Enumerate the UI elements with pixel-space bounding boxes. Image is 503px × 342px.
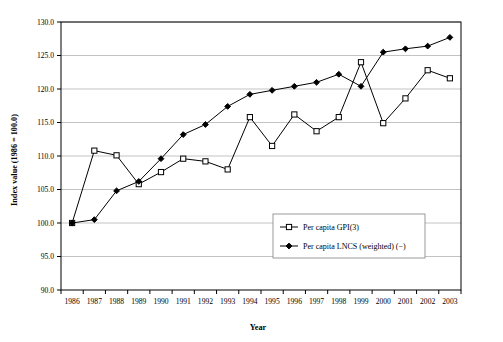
data-point-marker-filled-diamond bbox=[247, 91, 253, 97]
x-tick-label: 2001 bbox=[398, 297, 413, 306]
data-point-marker-open-square bbox=[181, 156, 186, 161]
x-tick-label: 1988 bbox=[109, 297, 124, 306]
index-value-line-chart: 90.095.0100.0105.0110.0115.0120.0125.013… bbox=[0, 0, 503, 342]
y-tick-label: 95.0 bbox=[41, 252, 54, 261]
data-point-marker-open-square bbox=[292, 112, 297, 117]
data-point-marker-open-square bbox=[203, 159, 208, 164]
data-point-marker-open-square bbox=[358, 60, 363, 65]
x-tick-label: 2003 bbox=[442, 297, 457, 306]
y-axis-title: Index value (1986 = 100.0) bbox=[10, 114, 19, 206]
x-tick-label: 1997 bbox=[309, 297, 324, 306]
data-point-marker-open-square bbox=[92, 148, 97, 153]
data-point-marker-open-square bbox=[286, 224, 291, 229]
chart-container: 90.095.0100.0105.0110.0115.0120.0125.013… bbox=[0, 0, 503, 342]
data-point-marker-open-square bbox=[403, 96, 408, 101]
x-tick-label: 1989 bbox=[131, 297, 146, 306]
y-tick-label: 125.0 bbox=[37, 51, 54, 60]
y-tick-label: 90.0 bbox=[41, 286, 54, 295]
y-tick-label: 120.0 bbox=[37, 85, 54, 94]
data-point-marker-open-square bbox=[425, 68, 430, 73]
x-tick-label: 1992 bbox=[198, 297, 213, 306]
y-tick-label: 105.0 bbox=[37, 185, 54, 194]
data-point-marker-open-square bbox=[270, 143, 275, 148]
legend: Per capita GPI(3)Per capita LNCS (weight… bbox=[273, 214, 425, 258]
series-lncs-weighted bbox=[69, 35, 453, 226]
data-point-marker-filled-diamond bbox=[447, 35, 453, 41]
x-tick-label: 1993 bbox=[220, 297, 235, 306]
data-point-marker-open-square bbox=[247, 115, 252, 120]
x-tick-label: 1986 bbox=[65, 297, 80, 306]
data-point-marker-filled-diamond bbox=[425, 43, 431, 49]
data-point-marker-open-square bbox=[158, 169, 163, 174]
legend-label: Per capita GPI(3) bbox=[303, 223, 359, 232]
data-point-marker-open-square bbox=[381, 121, 386, 126]
x-tick-label: 2002 bbox=[420, 297, 435, 306]
x-tick-label: 1996 bbox=[287, 297, 302, 306]
data-point-marker-open-square bbox=[336, 115, 341, 120]
x-tick-label: 1990 bbox=[153, 297, 168, 306]
legend-label: Per capita LNCS (weighted) (−) bbox=[303, 242, 406, 251]
x-tick-label: 1994 bbox=[242, 297, 257, 306]
data-point-marker-filled-diamond bbox=[269, 87, 275, 93]
y-tick-label: 130.0 bbox=[37, 18, 54, 27]
data-point-marker-open-square bbox=[114, 153, 119, 158]
series-polyline bbox=[72, 37, 450, 223]
x-axis-title: Year bbox=[250, 323, 267, 332]
x-tick-label: 1991 bbox=[176, 297, 191, 306]
data-point-marker-filled-diamond bbox=[358, 83, 364, 89]
x-tick-label: 1987 bbox=[87, 297, 102, 306]
data-point-marker-filled-diamond bbox=[380, 49, 386, 55]
data-point-marker-filled-diamond bbox=[336, 71, 342, 77]
x-tick-label: 1995 bbox=[265, 297, 280, 306]
y-tick-label: 115.0 bbox=[37, 118, 54, 127]
series-polyline bbox=[72, 62, 450, 223]
x-axis-ticks: 1986198719881989199019911992199319941995… bbox=[61, 290, 461, 306]
y-tick-label: 100.0 bbox=[37, 219, 54, 228]
y-axis-ticks: 90.095.0100.0105.0110.0115.0120.0125.013… bbox=[37, 18, 61, 295]
data-point-marker-filled-diamond bbox=[314, 79, 320, 85]
legend-box bbox=[273, 214, 425, 258]
x-tick-label: 2000 bbox=[376, 297, 391, 306]
x-tick-label: 1999 bbox=[353, 297, 368, 306]
y-tick-label: 110.0 bbox=[37, 152, 54, 161]
data-point-marker-open-square bbox=[314, 129, 319, 134]
data-point-marker-open-square bbox=[225, 167, 230, 172]
data-point-marker-filled-diamond bbox=[403, 46, 409, 52]
data-point-marker-filled-diamond bbox=[291, 83, 297, 89]
x-tick-label: 1998 bbox=[331, 297, 346, 306]
series-gpi3 bbox=[70, 60, 453, 226]
data-point-marker-open-square bbox=[447, 76, 452, 81]
